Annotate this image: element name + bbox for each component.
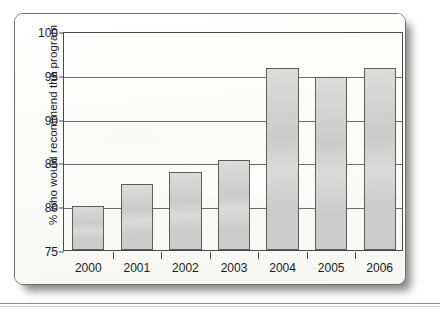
y-axis-tick-label: 75: [18, 245, 58, 259]
x-axis-tick-mark: [355, 252, 356, 259]
bar-chart-figure: % who would recommend the program 758085…: [14, 13, 406, 285]
y-axis-tick-mark: [59, 76, 64, 77]
plot-area: 7580859095100 20002001200220032004200520…: [63, 32, 403, 251]
x-axis-tick-mark: [210, 252, 211, 259]
bar: [364, 68, 396, 250]
y-axis-tick-label: 85: [18, 157, 58, 171]
y-axis-tick-label: 80: [18, 201, 58, 215]
x-axis-tick-mark: [307, 252, 308, 259]
y-axis-tick-label: 100: [18, 26, 58, 40]
y-axis-tick-label: 95: [18, 70, 58, 84]
bar: [72, 206, 104, 250]
page-bottom-rule-secondary: [0, 306, 440, 307]
y-axis-tick-mark: [59, 33, 64, 34]
bar: [315, 77, 347, 250]
bar: [266, 68, 298, 250]
x-axis-tick-mark: [113, 252, 114, 259]
bar: [218, 160, 250, 250]
bar: [121, 184, 153, 250]
x-axis-tick-mark: [161, 252, 162, 259]
gridline: [64, 77, 402, 78]
y-axis-tick-mark: [59, 208, 64, 209]
y-axis-tick-label: 90: [18, 114, 58, 128]
gridline: [64, 121, 402, 122]
y-axis-tick-mark: [59, 120, 64, 121]
y-axis-tick-mark: [59, 164, 64, 165]
y-axis-tick-mark: [59, 252, 64, 253]
page-bottom-rule: [0, 303, 440, 304]
x-axis-tick-label: 2006: [350, 261, 410, 275]
bar: [169, 172, 201, 250]
x-axis-tick-mark: [258, 252, 259, 259]
